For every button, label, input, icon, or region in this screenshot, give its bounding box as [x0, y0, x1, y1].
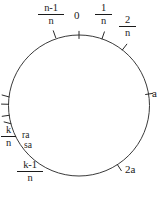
- numerator: n-1: [38, 3, 64, 14]
- numerator: k-1: [17, 160, 43, 171]
- tick-two-over-n: [122, 44, 126, 50]
- numerator: k: [1, 125, 16, 136]
- denominator: n: [119, 28, 136, 39]
- denominator: n: [38, 16, 64, 27]
- denominator: n: [1, 138, 16, 149]
- tick-ra: [2, 115, 9, 116]
- label-zero: 0: [74, 9, 80, 21]
- label-two-over-n: 2 n: [119, 15, 136, 38]
- label-sa: sa: [24, 140, 32, 150]
- denominator: n: [95, 16, 112, 27]
- tick-n-minus-1-over-n: [53, 31, 55, 38]
- tick-k-minus-1-over-n: [2, 95, 9, 97]
- main-circle: [9, 35, 150, 176]
- numerator: 2: [119, 15, 136, 26]
- label-n-minus-1-over-n: n-1 n: [38, 3, 64, 26]
- label-a: a: [152, 87, 157, 99]
- label-k-minus-1-over-n: k-1 n: [17, 160, 43, 183]
- denominator: n: [17, 173, 43, 184]
- label-ra: ra: [22, 130, 29, 140]
- label-k-over-n: k n: [1, 125, 16, 148]
- circle-diagram-figure: n-1 n 0 1 n 2 n a 2a k n ra sa k-1 n: [0, 0, 162, 198]
- tick-two-a: [117, 165, 121, 171]
- label-two-a: 2a: [125, 163, 135, 175]
- tick-one-over-n: [102, 32, 104, 39]
- label-one-over-n: 1 n: [95, 3, 112, 26]
- numerator: 1: [95, 3, 112, 14]
